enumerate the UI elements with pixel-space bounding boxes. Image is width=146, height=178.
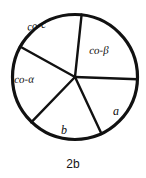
sector-label-co-beta: co-β [89, 45, 109, 56]
pie-diagram [0, 0, 146, 178]
center-hub [73, 75, 76, 78]
sector-label-b: b [61, 124, 67, 136]
figure-container: co-c co-β co-α b a 2b [0, 0, 146, 178]
sector-label-a: a [113, 105, 119, 117]
sector-label-co-alpha: co-α [14, 74, 34, 85]
figure-caption: 2b [0, 158, 146, 170]
